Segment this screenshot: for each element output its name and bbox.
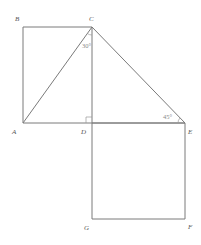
- label-g: G: [84, 224, 89, 232]
- square-defg: [92, 123, 185, 219]
- label-b: B: [15, 15, 20, 23]
- geometry-diagram: B C A D E G F 30° 45°: [0, 0, 201, 245]
- label-c: C: [89, 15, 94, 23]
- angle-arc-c: [87, 34, 92, 36]
- label-a: A: [11, 128, 17, 136]
- angle-arc-e: [178, 118, 180, 123]
- label-d: D: [80, 128, 86, 136]
- segment-ce: [92, 27, 185, 123]
- label-e: E: [187, 128, 193, 136]
- right-angle-mark-d: [86, 117, 92, 123]
- label-f: F: [187, 223, 193, 231]
- angle-label-e: 45°: [163, 113, 173, 120]
- angle-label-c: 30°: [82, 42, 92, 49]
